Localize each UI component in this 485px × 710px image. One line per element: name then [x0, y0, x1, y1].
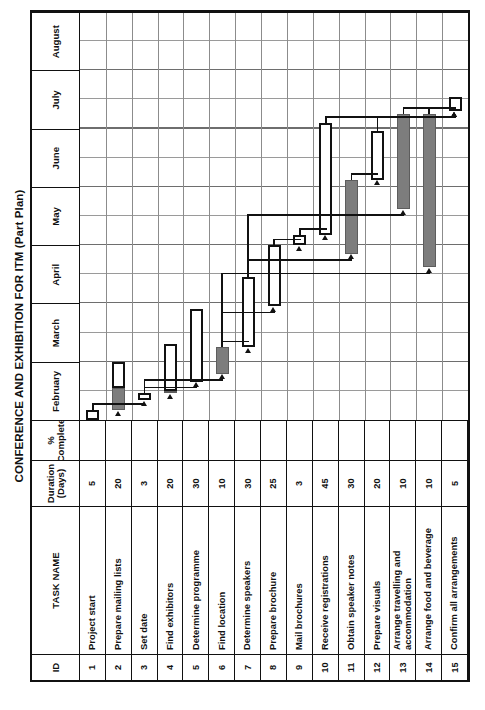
table-row-duration-14[interactable]: 10	[416, 460, 442, 506]
table-row-id-10[interactable]: 10	[313, 654, 339, 680]
table-row-duration-5[interactable]: 30	[183, 460, 209, 506]
table-row-name-7[interactable]: Determine speakers	[235, 506, 261, 654]
gridline-row-4	[183, 13, 184, 420]
gantt-plot-area	[80, 12, 468, 420]
gantt-bar-complete-13[interactable]	[397, 114, 410, 209]
gridline-row-12	[390, 13, 391, 420]
dependency-arrow-9-icon	[348, 254, 354, 259]
dependency-arrow-3-icon	[193, 382, 199, 387]
table-row-percent-12[interactable]	[365, 420, 391, 460]
table-row-duration-7[interactable]: 30	[235, 460, 261, 506]
table-row-percent-11[interactable]	[339, 420, 365, 460]
gantt-bar-remaining-8[interactable]	[268, 245, 281, 306]
dependency-link-11-v	[247, 214, 404, 216]
dependency-link-3-v	[144, 387, 197, 389]
table-row-percent-5[interactable]	[183, 420, 209, 460]
table-row-name-6[interactable]: Find location	[209, 506, 235, 654]
dependency-link-7-h1	[273, 240, 275, 245]
gantt-bar-remaining-4[interactable]	[164, 344, 177, 391]
table-row-duration-3[interactable]: 3	[132, 460, 158, 506]
table-row-percent-7[interactable]	[235, 420, 261, 460]
table-row-name-9[interactable]: Mail brochures	[287, 506, 313, 654]
table-row-id-1[interactable]: 1	[80, 654, 106, 680]
table-row-percent-14[interactable]	[416, 420, 442, 460]
table-row-id-11[interactable]: 11	[339, 654, 365, 680]
table-row-duration-8[interactable]: 25	[261, 460, 287, 506]
gridline-month-6	[80, 69, 468, 70]
table-row-id-5[interactable]: 5	[183, 654, 209, 680]
table-row-percent-8[interactable]	[261, 420, 287, 460]
table-row-name-2[interactable]: Prepare mailing lists	[106, 506, 132, 654]
month-header-february: February	[32, 362, 80, 420]
table-row-name-14[interactable]: Arrange food and beverage	[416, 506, 442, 654]
table-row-name-5[interactable]: Determine programme	[183, 506, 209, 654]
table-row-percent-4[interactable]	[158, 420, 184, 460]
gridline-row-3	[158, 13, 159, 420]
gantt-bar-remaining-10[interactable]	[319, 123, 332, 235]
gantt-bar-complete-6[interactable]	[216, 347, 229, 374]
gridline-half-6	[80, 98, 468, 99]
dependency-link-14-v	[377, 117, 456, 119]
table-row-duration-15[interactable]: 5	[442, 460, 468, 506]
dependency-link-8-v	[299, 228, 326, 230]
table-row-id-8[interactable]: 8	[261, 654, 287, 680]
table-row-percent-9[interactable]	[287, 420, 313, 460]
column-header-percent-complete: % Complete	[32, 420, 80, 460]
table-row-name-15[interactable]: Confirm all arrangements	[442, 506, 468, 654]
table-row-id-9[interactable]: 9	[287, 654, 313, 680]
table-row-name-1[interactable]: Project start	[80, 506, 106, 654]
gantt-bar-remaining-3[interactable]	[138, 393, 151, 400]
table-row-duration-11[interactable]: 30	[339, 460, 365, 506]
table-row-name-13[interactable]: Arrange travelling and accommodation	[390, 506, 416, 654]
table-row-id-4[interactable]: 4	[158, 654, 184, 680]
dependency-link-5-v	[221, 341, 248, 343]
gridline-row-7	[261, 13, 262, 420]
table-row-duration-6[interactable]: 10	[209, 460, 235, 506]
table-row-id-14[interactable]: 14	[416, 654, 442, 680]
percent-label-line1: %	[46, 436, 56, 445]
table-row-duration-10[interactable]: 45	[313, 460, 339, 506]
dependency-link-1-v	[92, 404, 145, 406]
dependency-link-13-h1	[325, 118, 327, 123]
table-row-percent-1[interactable]	[80, 420, 106, 460]
table-row-duration-4[interactable]: 20	[158, 460, 184, 506]
table-row-duration-12[interactable]: 20	[365, 460, 391, 506]
table-row-duration-1[interactable]: 5	[80, 460, 106, 506]
table-row-percent-2[interactable]	[106, 420, 132, 460]
table-row-id-2[interactable]: 2	[106, 654, 132, 680]
month-header-april: April	[32, 245, 80, 303]
gantt-bar-complete-14[interactable]	[423, 114, 436, 267]
table-row-percent-3[interactable]	[132, 420, 158, 460]
dependency-arrow-0-icon	[115, 411, 121, 416]
gantt-bar-complete-11[interactable]	[345, 180, 358, 254]
gantt-bar-remaining-2[interactable]	[112, 362, 125, 388]
table-row-name-8[interactable]: Prepare brochure	[261, 506, 287, 654]
gridline-row-9	[313, 13, 314, 420]
dependency-link-1-h1	[92, 405, 94, 410]
table-row-id-3[interactable]: 3	[132, 654, 158, 680]
gantt-bar-remaining-5[interactable]	[190, 309, 203, 381]
table-row-id-7[interactable]: 7	[235, 654, 261, 680]
table-row-percent-15[interactable]	[442, 420, 468, 460]
table-row-duration-13[interactable]: 10	[390, 460, 416, 506]
gridline-month-1	[80, 361, 468, 362]
table-row-name-10[interactable]: Receive registrations	[313, 506, 339, 654]
table-row-name-3[interactable]: Set date	[132, 506, 158, 654]
table-row-name-12[interactable]: Prepare visuals	[365, 506, 391, 654]
gantt-bar-complete-2[interactable]	[112, 388, 125, 410]
table-row-duration-2[interactable]: 20	[106, 460, 132, 506]
table-row-name-11[interactable]: Obtain speaker notes	[339, 506, 365, 654]
table-row-percent-10[interactable]	[313, 420, 339, 460]
table-row-id-12[interactable]: 12	[365, 654, 391, 680]
table-row-name-4[interactable]: Find exhibitors	[158, 506, 184, 654]
table-row-percent-13[interactable]	[390, 420, 416, 460]
gantt-chart-page: CONFERENCE AND EXHIBITION FOR ITM (Part …	[0, 0, 485, 710]
table-row-id-13[interactable]: 13	[390, 654, 416, 680]
table-row-id-6[interactable]: 6	[209, 654, 235, 680]
gantt-bar-remaining-1[interactable]	[86, 410, 99, 420]
gridline-row-1	[106, 13, 107, 420]
dependency-link-6-v	[221, 312, 274, 314]
table-row-duration-9[interactable]: 3	[287, 460, 313, 506]
table-row-percent-6[interactable]	[209, 420, 235, 460]
table-row-id-15[interactable]: 15	[442, 654, 468, 680]
